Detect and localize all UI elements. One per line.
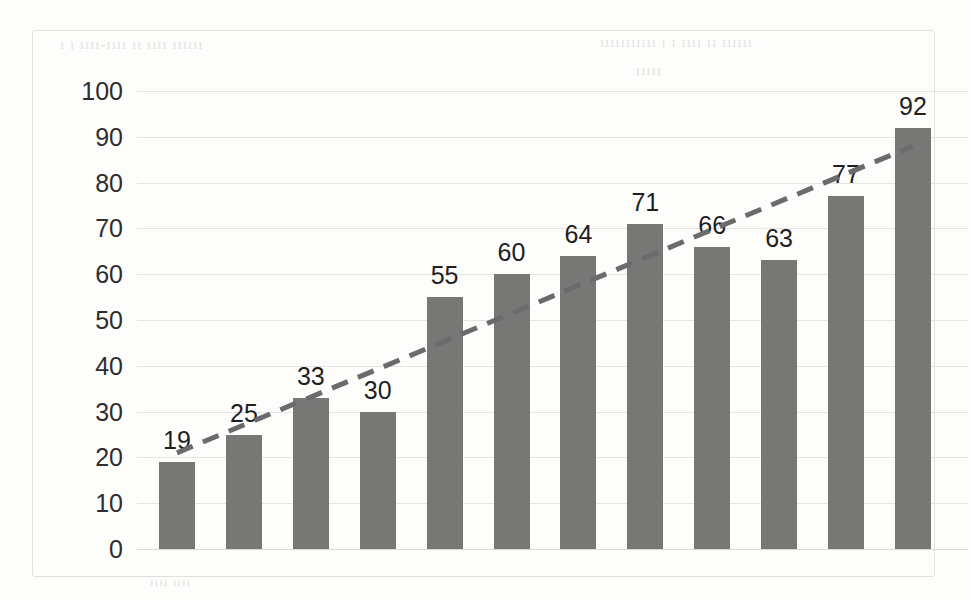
y-axis-tick-label: 50: [95, 306, 123, 335]
bar-data-label: 63: [765, 224, 793, 253]
bar-data-label: 71: [631, 188, 659, 217]
bar: [761, 260, 797, 549]
y-axis-tick-label: 60: [95, 260, 123, 289]
bar-data-label: 30: [364, 376, 392, 405]
y-axis-tick-label: 40: [95, 351, 123, 380]
y-axis-tick-label: 20: [95, 443, 123, 472]
bar: [360, 412, 396, 549]
bar: [293, 398, 329, 549]
y-axis-tick-label: 90: [95, 122, 123, 151]
bar-data-label: 64: [564, 220, 592, 249]
bar-data-label: 55: [431, 261, 459, 290]
y-axis-tick-label: 100: [81, 77, 123, 106]
gridline: [137, 549, 968, 550]
y-axis-tick-label: 10: [95, 489, 123, 518]
y-axis-tick-label: 30: [95, 397, 123, 426]
bar-data-label: 66: [698, 211, 726, 240]
bar: [159, 462, 195, 549]
bar: [427, 297, 463, 549]
y-axis-tick-label: 0: [109, 535, 123, 564]
bar-data-label: 77: [832, 160, 860, 189]
bar: [627, 224, 663, 549]
bar: [895, 128, 931, 549]
bar-data-label: 92: [899, 92, 927, 121]
bar: [828, 196, 864, 549]
bar-data-label: 60: [498, 238, 526, 267]
y-axis-tick-label: 70: [95, 214, 123, 243]
bar: [560, 256, 596, 549]
gridline: [137, 137, 968, 138]
bar-data-label: 19: [163, 426, 191, 455]
bar-data-label: 33: [297, 362, 325, 391]
chart-frame: 1009080706050403020100 19253330556064716…: [32, 30, 935, 577]
gridline: [137, 91, 968, 92]
bar: [694, 247, 730, 549]
plot-area: 1009080706050403020100 19253330556064716…: [137, 91, 968, 549]
bar-data-label: 25: [230, 399, 258, 428]
bar: [226, 435, 262, 550]
chart-page: ı ı ıııı‐ıııı ıı ıııı ıııııı ııııııııııı…: [0, 0, 972, 601]
bar: [494, 274, 530, 549]
y-axis-tick-label: 80: [95, 168, 123, 197]
